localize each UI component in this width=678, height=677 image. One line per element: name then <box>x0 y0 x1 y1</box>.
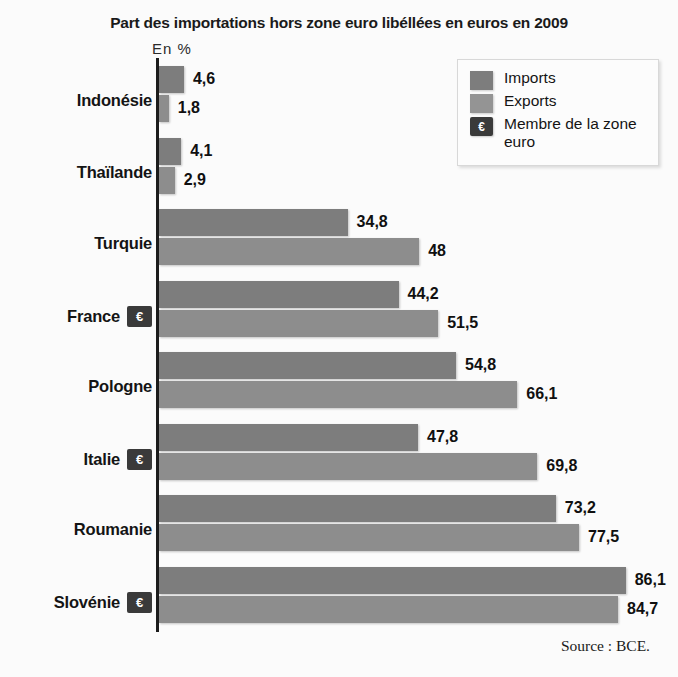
category-name: Italie <box>84 450 120 469</box>
bar-value-label: 77,5 <box>588 528 619 546</box>
category-label-turquie: Turquie <box>0 234 152 253</box>
bar-value-label: 69,8 <box>546 457 577 475</box>
category-label-slovénie: Slovénie€ <box>0 592 152 613</box>
category-name: Turquie <box>94 234 152 253</box>
bar-value-label: 44,2 <box>408 285 439 303</box>
euro-member-badge: € <box>127 449 152 470</box>
bar-exports-turquie <box>159 238 419 265</box>
bar-exports-france <box>159 310 438 337</box>
category-group: Pologne54,866,1 <box>0 352 678 408</box>
bar-value-label: 51,5 <box>447 314 478 332</box>
category-name: Pologne <box>88 377 152 396</box>
category-label-roumanie: Roumanie <box>0 520 152 539</box>
category-name: Roumanie <box>74 520 152 539</box>
bar-value-label: 86,1 <box>635 571 666 589</box>
bar-imports-pologne <box>159 352 456 379</box>
bar-value-label: 2,9 <box>184 171 206 189</box>
category-label-france: France€ <box>0 306 152 327</box>
category-name: Indonésie <box>77 91 152 110</box>
bar-imports-indonésie <box>159 66 184 93</box>
bar-imports-france <box>159 281 399 308</box>
bar-value-label: 66,1 <box>526 385 557 403</box>
euro-member-badge: € <box>127 306 152 327</box>
bar-imports-slovénie <box>159 567 626 594</box>
bar-imports-turquie <box>159 209 348 236</box>
category-group: France€44,251,5 <box>0 281 678 337</box>
legend-label: Exports <box>504 92 557 110</box>
category-name: Slovénie <box>54 593 120 612</box>
legend-item-imports: Imports <box>470 69 648 90</box>
category-label-pologne: Pologne <box>0 377 152 396</box>
bar-value-label: 73,2 <box>565 499 596 517</box>
category-group: Roumanie73,277,5 <box>0 495 678 551</box>
bar-exports-indonésie <box>159 95 169 122</box>
legend-swatch-icon <box>470 71 493 90</box>
bar-imports-italie <box>159 424 418 451</box>
category-label-thaïlande: Thaïlande <box>0 163 152 182</box>
chart-legend: ImportsExports€Membre de la zone euro <box>457 59 659 166</box>
euro-member-badge: € <box>127 592 152 613</box>
bar-exports-italie <box>159 453 537 480</box>
bar-value-label: 84,7 <box>627 600 658 618</box>
category-group: Italie€47,869,8 <box>0 424 678 480</box>
legend-label: Imports <box>504 69 556 87</box>
category-group: Slovénie€86,184,7 <box>0 567 678 623</box>
euro-symbol-icon: € <box>470 117 493 136</box>
bar-exports-thaïlande <box>159 167 175 194</box>
bar-value-label: 54,8 <box>465 356 496 374</box>
legend-item-euro: €Membre de la zone euro <box>470 115 648 152</box>
bar-imports-thaïlande <box>159 138 181 165</box>
bar-value-label: 47,8 <box>427 428 458 446</box>
bar-value-label: 48 <box>428 242 446 260</box>
bar-value-label: 4,1 <box>190 142 212 160</box>
bar-imports-roumanie <box>159 495 556 522</box>
legend-item-exports: Exports <box>470 92 648 113</box>
bar-exports-roumanie <box>159 524 579 551</box>
category-group: Turquie34,848 <box>0 209 678 265</box>
bar-value-label: 34,8 <box>357 213 388 231</box>
bar-exports-pologne <box>159 381 517 408</box>
source-note: Source : BCE. <box>561 637 650 655</box>
legend-swatch-icon <box>470 94 493 113</box>
category-name: Thaïlande <box>77 163 152 182</box>
category-name: France <box>67 307 120 326</box>
category-label-italie: Italie€ <box>0 449 152 470</box>
bar-value-label: 1,8 <box>178 99 200 117</box>
legend-label: Membre de la zone euro <box>504 115 648 152</box>
category-label-indonésie: Indonésie <box>0 91 152 110</box>
bar-exports-slovénie <box>159 596 618 623</box>
bar-value-label: 4,6 <box>193 70 215 88</box>
